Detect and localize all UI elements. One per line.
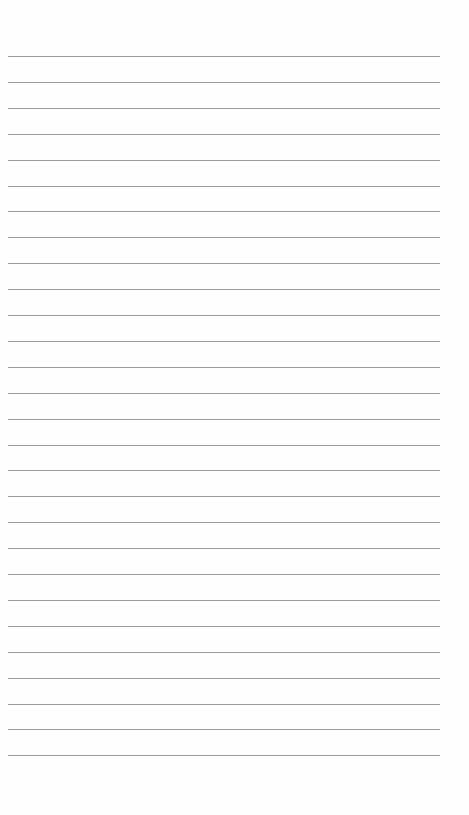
ruled-line <box>8 755 440 756</box>
ruled-line <box>8 393 440 394</box>
ruled-line <box>8 134 440 135</box>
ruled-line <box>8 445 440 446</box>
ruled-line <box>8 626 440 627</box>
ruled-line <box>8 263 440 264</box>
ruled-line <box>8 186 440 187</box>
ruled-line <box>8 600 440 601</box>
lined-paper-page <box>0 0 469 815</box>
ruled-line <box>8 652 440 653</box>
ruled-line <box>8 315 440 316</box>
ruled-line <box>8 82 440 83</box>
ruled-line <box>8 678 440 679</box>
ruled-line <box>8 574 440 575</box>
ruled-line <box>8 367 440 368</box>
ruled-line <box>8 704 440 705</box>
ruled-line <box>8 289 440 290</box>
ruled-line <box>8 470 440 471</box>
ruled-line <box>8 108 440 109</box>
ruled-line <box>8 211 440 212</box>
ruled-line <box>8 160 440 161</box>
ruled-line <box>8 341 440 342</box>
ruled-line <box>8 548 440 549</box>
ruled-line <box>8 237 440 238</box>
ruled-line <box>8 496 440 497</box>
ruled-line <box>8 56 440 57</box>
ruled-line <box>8 729 440 730</box>
ruled-line <box>8 522 440 523</box>
ruled-line <box>8 419 440 420</box>
